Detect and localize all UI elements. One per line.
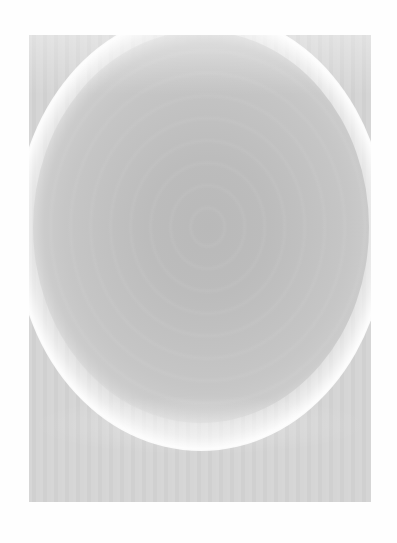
top-glow — [29, 35, 371, 95]
photo-print — [29, 35, 371, 502]
bottom-glow — [29, 395, 371, 455]
page-background — [0, 0, 397, 543]
